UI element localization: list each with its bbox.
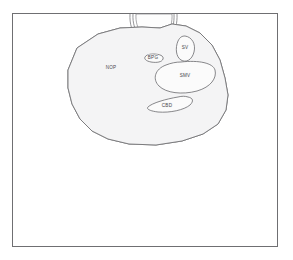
region-label-cbd: CBD [162,103,173,108]
figure-root: NOP BPG SV SMV CBD [0,0,293,260]
region-label-bpg: BPG [148,55,159,60]
region-label-smv: SMV [180,73,191,78]
anatomy-tracing-svg: NOP BPG SV SMV CBD [0,0,293,260]
region-label-sv: SV [182,45,189,50]
region-label-nop: NOP [106,65,117,70]
